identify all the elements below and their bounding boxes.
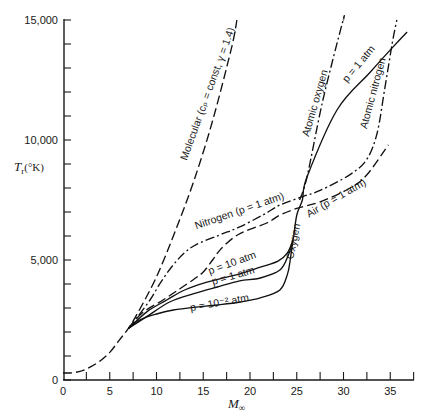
x-tick-label: 30 — [337, 385, 349, 397]
x-tick-label: 0 — [60, 385, 66, 397]
y-axis-ticks — [64, 20, 71, 380]
label-p-10-2-atm: p = 10⁻² atm — [189, 291, 250, 313]
curve-oxygen-p-1-atm — [128, 32, 407, 328]
x-tick-label: 25 — [291, 385, 303, 397]
x-tick-label: 5 — [107, 385, 113, 397]
recovery-temperature-chart: 0 5,000 10,000 15,000 0 5 10 15 20 25 30… — [0, 0, 429, 420]
y-tick-labels: 0 5,000 10,000 15,000 — [24, 14, 58, 386]
y-tick-label: 10,000 — [24, 134, 58, 146]
y-axis-title: Tr(°K) — [14, 159, 44, 176]
x-axis-ticks — [86, 372, 413, 380]
label-oxygen: Oxygen — [283, 222, 302, 260]
y-axis-title-unit: (°K) — [24, 161, 44, 174]
x-axis-title-sub: ∞ — [239, 403, 245, 413]
x-tick-label: 20 — [244, 385, 256, 397]
x-tick-label: 10 — [150, 385, 162, 397]
label-atomic-oxygen: Atomic oxygen — [299, 68, 330, 138]
y-tick-label: 5,000 — [30, 254, 58, 266]
x-tick-label: 15 — [197, 385, 209, 397]
x-tick-label: 35 — [384, 385, 396, 397]
x-axis-title: M∞ — [227, 396, 245, 413]
curve-air-p-1-atm — [128, 145, 388, 329]
y-tick-label: 15,000 — [24, 14, 58, 26]
axes — [63, 19, 414, 380]
y-tick-label: 0 — [52, 374, 58, 386]
curve-labels: Molecular (cₚ = const, γ = 1.4) Atomic o… — [177, 26, 387, 314]
